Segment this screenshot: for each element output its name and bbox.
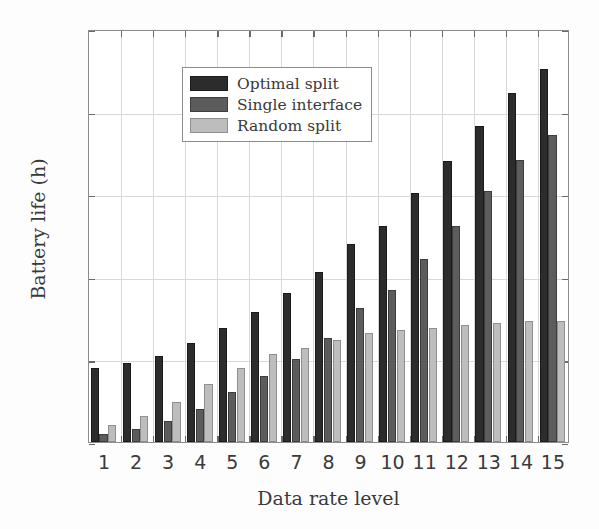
y-tick-mark [89,361,95,362]
bar [347,244,355,442]
x-tick-mark [313,31,314,37]
bar [99,434,107,442]
legend: Optimal split Single interface Random sp… [182,67,372,142]
bar [508,93,516,442]
bar [379,226,387,442]
gridline [89,196,568,197]
bar [237,368,245,442]
bar [108,425,116,442]
x-tick-mark [249,31,250,37]
y-tick-mark [562,114,568,115]
bar [429,328,437,442]
bar [461,325,469,442]
x-tick-mark [442,31,443,37]
bar [140,416,148,442]
bar [475,126,483,442]
legend-item: Optimal split [190,73,362,94]
bar [443,161,451,442]
legend-label-optimal-split: Optimal split [237,75,339,93]
bar [123,363,131,442]
bar [219,328,227,442]
y-axis-label: Battery life (h) [27,109,49,349]
x-tick-mark [474,31,475,37]
bar [283,293,291,442]
bar [132,429,140,442]
x-tick-mark [378,31,379,37]
y-tick-mark [562,279,568,280]
bar [557,321,565,442]
bar [420,259,428,442]
bar [196,409,204,442]
x-tick-mark [153,31,154,37]
bar [155,356,163,442]
y-tick-mark [89,279,95,280]
y-tick-mark [562,444,568,445]
bar [484,191,492,442]
bar [540,69,548,442]
bar [269,354,277,442]
bar [228,392,236,442]
legend-swatch-single-interface [190,97,228,112]
x-tick-mark [346,31,347,37]
y-tick-mark [89,196,95,197]
x-tick-mark [217,31,218,37]
legend-item: Single interface [190,94,362,115]
bar [548,135,556,442]
y-tick-mark [89,114,95,115]
x-tick-mark [506,31,507,37]
legend-swatch-optimal-split [190,76,228,91]
figure: Battery life (h) Optimal split Single in… [0,0,599,529]
bar [333,340,341,442]
bar [315,272,323,442]
x-tick-mark [410,31,411,37]
bar [525,321,533,442]
bar [187,343,195,442]
legend-swatch-random-split [190,118,228,133]
bar [516,160,524,442]
bar [164,421,172,442]
bar [292,359,300,442]
x-tick-mark [185,31,186,37]
x-tick-mark [121,31,122,37]
bar [301,348,309,442]
bar [365,333,373,442]
bar [388,290,396,442]
legend-label-random-split: Random split [237,117,341,135]
bar [356,308,364,442]
bar [411,193,419,442]
y-tick-mark [89,444,95,445]
bar [493,323,501,442]
bar [452,226,460,442]
y-tick-mark [562,31,568,32]
bar [172,402,180,442]
gridline [89,279,568,280]
x-tick-label: 15 [533,451,573,473]
bar [324,338,332,442]
bar [91,368,99,442]
legend-label-single-interface: Single interface [237,96,362,114]
x-tick-mark [538,31,539,37]
x-tick-mark [281,31,282,37]
y-tick-mark [562,196,568,197]
x-axis-label: Data rate level [88,487,569,509]
bar [251,312,259,443]
bar [397,330,405,442]
bar [260,376,268,442]
legend-item: Random split [190,115,362,136]
bar [204,384,212,442]
y-tick-mark [89,31,95,32]
plot-area: Optimal split Single interface Random sp… [88,30,569,443]
